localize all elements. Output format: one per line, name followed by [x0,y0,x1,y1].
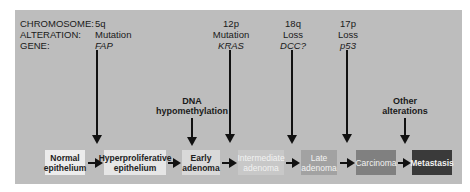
arrow-18q-line [291,50,293,136]
arrow-down-icon [287,135,297,144]
stage-label: Carcinoma [355,158,396,168]
arrow-other-line [404,118,406,136]
event-gene: FAP [95,40,131,51]
side-event-line2: hypomethylation [152,106,232,116]
event-18q: 18q Loss DCC? [272,18,314,51]
event-chromosome: 12p [205,18,257,29]
stage-carcinoma: Carcinoma [356,150,396,175]
arrow-right-icon [292,158,300,168]
event-other-alterations: Other alterations [375,96,435,116]
stage-label: Metastasis [410,158,453,168]
event-alteration: Loss [272,29,314,40]
stage-label: Hyperproliferative [99,153,172,163]
event-chromosome: 5q [95,18,131,29]
arrow-right-icon [95,158,103,168]
arrow-down-icon [187,137,197,146]
event-12p: 12p Mutation KRAS [205,18,257,51]
side-event-line1: DNA [152,96,232,106]
event-chromosome: 18q [272,18,314,29]
side-event-line2: alterations [375,106,435,116]
arrow-17p-line [346,50,348,135]
event-chromosome: 17p [327,18,369,29]
event-5q: 5q Mutation FAP [95,18,131,51]
arrow-down-icon [92,135,102,144]
stage-label: epithelium [99,163,172,173]
arrow-right-icon [347,158,355,168]
stage-metastasis: Metastasis [412,150,452,175]
stage-early-adenoma: Earlyadenoma [182,150,220,175]
arrow-down-icon [400,135,410,144]
arrow-5q-line [96,50,98,136]
alteration-label: ALTERATION: [20,29,94,40]
stage-normal-epithelium: Normalepithelium [45,150,85,175]
event-alteration: Mutation [205,29,257,40]
event-alteration: Mutation [95,29,131,40]
arrow-12p-line [229,50,231,135]
arrow-right-icon [229,158,237,168]
stage-label: Late [301,153,336,163]
event-alteration: Loss [327,29,369,40]
event-dna-hypomethylation: DNA hypomethylation [152,96,232,116]
arrow-dna-line [191,118,193,138]
side-event-line1: Other [375,96,435,106]
stage-late-adenoma: Lateadenoma [301,150,337,175]
event-gene: DCC? [272,40,314,51]
stage-label: adenoma [301,163,336,173]
row-labels: CHROMOSOME: ALTERATION: GENE: [20,18,94,51]
stage-label: Normal [44,153,87,163]
stage-label: Early [182,153,219,163]
stage-label: Intermediate [237,153,284,163]
stage-intermediate-adenoma: Intermediateadenoma [238,150,284,175]
event-17p: 17p Loss p53 [327,18,369,51]
stage-label: epithelium [44,163,87,173]
chromosome-label: CHROMOSOME: [20,18,94,29]
stage-label: adenoma [182,163,219,173]
event-gene: p53 [327,40,369,51]
arrow-right-icon [403,158,411,168]
gene-label: GENE: [20,40,94,51]
stage-hyperproliferative-epithelium: Hyperproliferativeepithelium [104,150,166,175]
arrow-right-icon [173,158,181,168]
event-gene: KRAS [205,40,257,51]
arrow-down-icon [225,134,235,143]
stage-label: adenoma [237,163,284,173]
arrow-down-icon [342,134,352,143]
